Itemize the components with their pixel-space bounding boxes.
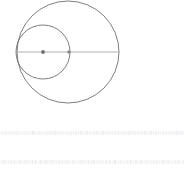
microtext-band-lower: ·|·||·|·|·||·||·|·|||·|·||·|·|·||·||·|·|… (0, 158, 184, 166)
small-circle-center-point (41, 50, 45, 54)
microtext-band-upper: ·|·|·||·|·||·|·|||·|·|·||·||·|·||||·|·||… (0, 129, 184, 137)
faint-marks: · · · (118, 143, 164, 153)
tangent-intersection-point (67, 50, 70, 53)
figure-root: ·|·|·||·|·||·|·|||·|·|·||·||·|·||||·|·||… (0, 0, 184, 173)
